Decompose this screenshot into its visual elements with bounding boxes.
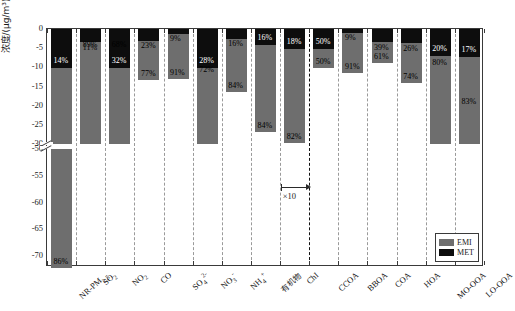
x-tick-mark (426, 261, 427, 265)
x-category-label: ChI (304, 270, 320, 286)
category-divider (338, 29, 339, 265)
y-tick-label: -50 (3, 144, 43, 152)
category-divider (134, 29, 135, 265)
x-tick-mark (76, 261, 77, 265)
bar-label-met: 17% (461, 46, 476, 54)
bar-label-emi: 84% (228, 82, 243, 90)
bar-label-emi: 89% (83, 41, 98, 49)
y-tick-label: -10 (3, 62, 43, 70)
bar-segment-met (372, 29, 393, 42)
bar-segment-met (401, 29, 422, 43)
category-divider (105, 29, 106, 265)
bar-label-met: 14% (54, 57, 69, 65)
bar-label-met: 9% (345, 34, 356, 42)
category-divider (426, 29, 427, 265)
x-tick-mark (455, 29, 456, 33)
bar-label-met: 16% (258, 34, 273, 42)
bar-segment-emi (430, 56, 451, 144)
x-tick-mark (47, 29, 48, 33)
bar-segment-emi (51, 68, 72, 144)
bar-segment-emi (51, 149, 72, 268)
x-tick-mark (338, 29, 339, 33)
y-tick-label: -5 (3, 43, 43, 51)
x-tick-mark (484, 29, 485, 33)
x-category-label: NH4+ (247, 270, 270, 293)
bar-label-emi: 83% (461, 98, 476, 106)
x-tick-mark (222, 261, 223, 265)
x-tick-mark (134, 261, 135, 265)
x-tick-mark (309, 261, 310, 265)
x-category-label: HOA (422, 270, 442, 290)
y-tick-label: -65 (3, 224, 43, 232)
bar-label-emi: 68% (112, 41, 127, 49)
x10-arrow-head (306, 184, 311, 190)
y-tick-label: -15 (3, 82, 43, 90)
x-tick-mark (484, 261, 485, 265)
legend-swatch-emi-icon (439, 239, 454, 246)
bar-label-emi: 91% (170, 69, 185, 77)
bar-label-emi: 91% (345, 63, 360, 71)
x-tick-mark (193, 261, 194, 265)
bar-label-met: 28% (199, 57, 214, 65)
x-tick-mark (251, 29, 252, 33)
x-tick-mark (164, 29, 165, 33)
bar-label-emi: 74% (403, 73, 418, 81)
bar-label-met: 50% (316, 38, 331, 46)
legend-label-emi: EMI (457, 239, 472, 247)
y-tick-label: -25 (3, 120, 43, 128)
bar-segment-met (226, 29, 247, 39)
major-divider (309, 29, 310, 265)
category-divider (222, 29, 223, 265)
bar-segment-met (138, 29, 159, 41)
y-tick-label: -20 (3, 101, 43, 109)
x-tick-mark (280, 261, 281, 265)
category-divider (280, 29, 281, 265)
bar-segment-emi (80, 42, 101, 144)
x-tick-mark (164, 261, 165, 265)
legend: EMI MET (435, 233, 479, 262)
x-tick-mark (309, 29, 310, 33)
legend-item-emi: EMI (439, 238, 474, 247)
plot-area: 14%86%11%89%32%68%23%77%9%91%28%72%16%84… (46, 28, 483, 266)
category-divider (76, 29, 77, 265)
bar-label-emi: 86% (54, 258, 69, 266)
legend-label-met: MET (457, 249, 474, 257)
x-tick-mark (397, 261, 398, 265)
x-category-label: NO3- (218, 270, 240, 292)
y-tick-label: -70 (3, 251, 43, 259)
legend-item-met: MET (439, 248, 474, 257)
bar-label-emi: 80% (432, 59, 447, 67)
bar-label-emi: 61% (374, 53, 389, 61)
x-category-label: BBOA (365, 270, 389, 293)
bar-label-met: 9% (170, 35, 181, 43)
bar-label-emi: 77% (141, 70, 156, 78)
y-tick-label: -55 (3, 171, 43, 179)
legend-swatch-met-icon (439, 249, 454, 256)
category-divider (397, 29, 398, 265)
x-category-label: COA (393, 270, 413, 289)
bar-label-met: 26% (403, 45, 418, 53)
category-divider (164, 29, 165, 265)
bar-label-emi: 50% (316, 58, 331, 66)
bar-label-emi: 84% (258, 122, 273, 130)
bar-segment-emi (197, 68, 218, 144)
x-tick-mark (367, 29, 368, 33)
x-tick-mark (134, 29, 135, 33)
x-category-label: SO42- (189, 270, 213, 293)
x-tick-mark (47, 261, 48, 265)
x-tick-mark (397, 29, 398, 33)
bar-label-emi: 72% (199, 66, 214, 74)
bar-label-met: 16% (228, 40, 243, 48)
category-divider (367, 29, 368, 265)
bar-label-met: 23% (141, 42, 156, 50)
x-category-label: LO-OOA (484, 270, 515, 299)
x-tick-mark (338, 261, 339, 265)
category-divider (251, 29, 252, 265)
x-tick-mark (426, 29, 427, 33)
x-tick-mark (105, 261, 106, 265)
x-tick-mark (76, 29, 77, 33)
x-category-label: CCOA (336, 270, 360, 293)
x-category-label: 有机物 (278, 270, 303, 294)
x-tick-mark (105, 29, 106, 33)
